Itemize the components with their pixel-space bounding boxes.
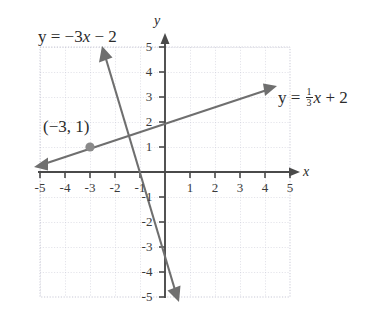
x-tick-label: 5 [283,181,297,194]
y-tick-label: -2 [136,215,158,228]
line1-equation-prefix: y = −3 [38,27,83,46]
x-tick-label: -4 [54,181,76,194]
one-third-fraction: 13 [306,87,313,109]
y-tick-label: -5 [136,290,158,303]
line2-equation-prefix: y = [278,88,305,107]
point-coordinate-label: (−3, 1) [43,118,89,135]
x-tick-label: -2 [104,181,126,194]
plotted-point [85,142,94,151]
x-tick-label: 4 [258,181,272,194]
y-tick-label: -4 [136,265,158,278]
y-tick-label: 2 [142,115,156,128]
x-tick-label: 2 [208,181,222,194]
fraction-denominator: 3 [306,98,313,108]
x-tick-label: -5 [29,181,51,194]
line2-equation-suffix: + 2 [321,88,348,107]
x-axis-name: x [303,165,309,179]
line2-equation-var: x [314,88,322,107]
x-tick-label: 1 [183,181,197,194]
y-tick-label: -3 [136,240,158,253]
y-tick-label: 3 [142,90,156,103]
y-tick-label: 5 [142,40,156,53]
y-tick-label: -1 [136,190,158,203]
y-tick-label: 4 [142,65,156,78]
line1-equation-label: y = −3x − 2 [38,28,117,45]
x-tick-label: -3 [79,181,101,194]
y-tick-label: 1 [142,140,156,153]
line2-equation-label: y = 13x + 2 [278,87,348,109]
x-tick-label: 3 [233,181,247,194]
y-axis-name: y [154,14,160,28]
coordinate-graph [0,0,381,314]
line1-equation-suffix: − 2 [90,27,117,46]
